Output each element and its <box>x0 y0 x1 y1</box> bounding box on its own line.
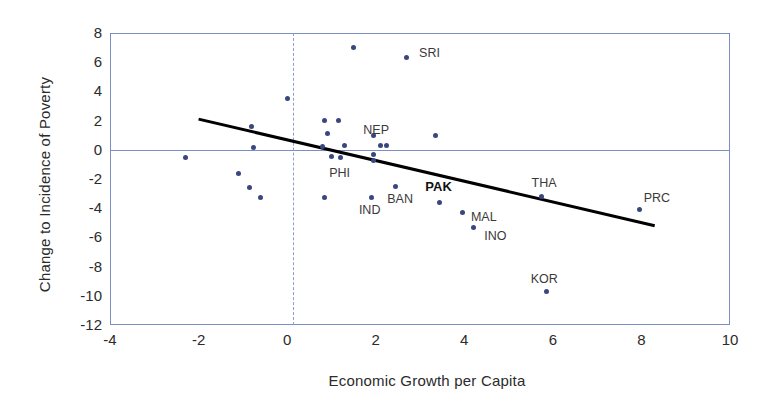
data-point <box>325 131 330 136</box>
label-tha: THA <box>532 176 557 190</box>
data-point <box>378 143 383 148</box>
label-nep: NEP <box>363 123 389 137</box>
scatter-chart-figure: SRINEPPHIINDBANPAKMALINOTHAKORPRC -4-202… <box>0 0 774 412</box>
y-tick-label: -4 <box>68 199 102 216</box>
label-mal: MAL <box>471 210 497 224</box>
y-tick-label: 8 <box>68 24 102 41</box>
data-point <box>285 96 290 101</box>
data-point <box>329 154 334 159</box>
label-ind: IND <box>359 203 381 217</box>
label-phi: PHI <box>329 166 350 180</box>
data-point <box>336 118 341 123</box>
y-tick-label: 2 <box>68 112 102 129</box>
x-tick-label: 0 <box>270 331 304 348</box>
data-point-ino <box>471 225 476 230</box>
x-tick-label: -2 <box>182 331 216 348</box>
y-tick-label: 6 <box>68 53 102 70</box>
y-tick-label: -10 <box>68 287 102 304</box>
plot-area-frame <box>110 33 730 325</box>
y-axis-title: Change to Incidence of Poverty <box>36 35 53 335</box>
data-point <box>371 152 376 157</box>
data-point <box>236 171 241 176</box>
data-point <box>371 158 376 163</box>
x-tick-label: 2 <box>359 331 393 348</box>
data-point-mal <box>460 210 465 215</box>
y-tick-label: -6 <box>68 228 102 245</box>
y-tick-label: 0 <box>68 141 102 158</box>
zero-horizontal-reference-line <box>110 150 730 151</box>
label-kor: KOR <box>531 272 558 286</box>
x-tick-label: 6 <box>536 331 570 348</box>
y-tick-label: 4 <box>68 82 102 99</box>
x-tick-label: -4 <box>93 331 127 348</box>
data-point <box>433 133 438 138</box>
y-tick-label: -8 <box>68 258 102 275</box>
data-point-kor <box>544 289 549 294</box>
x-tick-label: 4 <box>447 331 481 348</box>
zero-vertical-reference-line <box>293 33 294 325</box>
y-tick-label: -12 <box>68 316 102 333</box>
x-axis-title: Economic Growth per Capita <box>237 372 617 389</box>
x-tick-label: 10 <box>713 331 747 348</box>
label-ino: INO <box>484 229 506 243</box>
label-ban: BAN <box>387 192 413 206</box>
x-tick-label: 8 <box>624 331 658 348</box>
label-pak: PAK <box>425 179 451 194</box>
label-prc: PRC <box>644 191 670 205</box>
data-point-prc <box>637 207 642 212</box>
y-tick-label: -2 <box>68 170 102 187</box>
data-point <box>183 155 188 160</box>
label-sri: SRI <box>419 46 440 60</box>
data-point-ban <box>393 184 398 189</box>
data-point-phi <box>338 155 343 160</box>
